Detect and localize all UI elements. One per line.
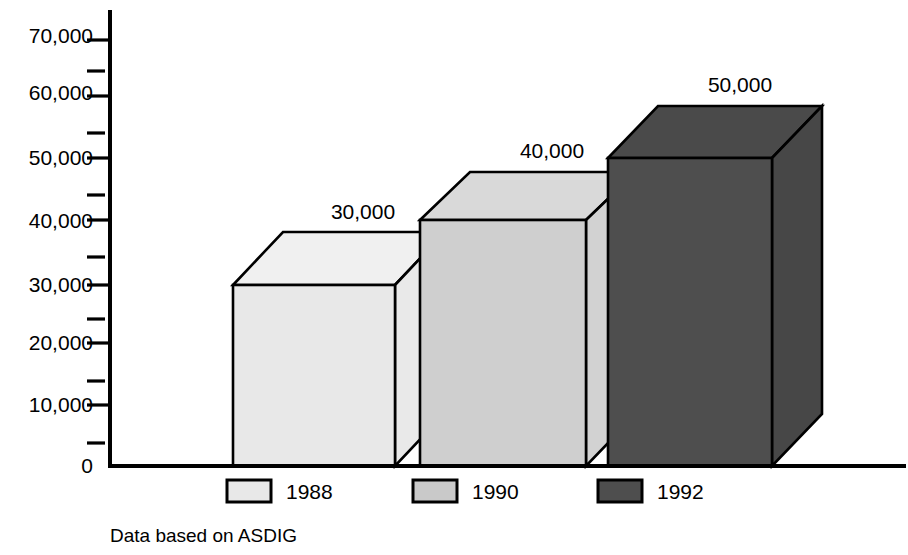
y-axis-tick-label: 30,000 <box>29 273 93 296</box>
chart-container: 70,000 60,000 50,000 40,000 30,000 20,00… <box>0 0 908 555</box>
y-axis-tick-label: 40,000 <box>29 209 93 232</box>
y-axis-tick-label: 70,000 <box>29 24 93 47</box>
bar-1988 <box>233 232 445 466</box>
legend-item-1988[interactable]: 1988 <box>227 480 333 503</box>
y-axis-tick-label: 50,000 <box>29 146 93 169</box>
footnote: Data based on ASDIG <box>110 525 297 546</box>
legend-swatch-icon <box>227 480 271 502</box>
bar-1990 <box>420 172 636 466</box>
bar-value-label: 50,000 <box>708 73 772 96</box>
legend: 1988 1990 1992 <box>227 480 704 503</box>
y-axis-tick-label: 10,000 <box>29 393 93 416</box>
legend-item-1992[interactable]: 1992 <box>598 480 704 503</box>
bar-side-face <box>772 106 822 466</box>
bar-1992 <box>608 106 822 466</box>
bar-value-label: 30,000 <box>331 200 395 223</box>
legend-item-1990[interactable]: 1990 <box>413 480 519 503</box>
y-axis-tick-label: 60,000 <box>29 81 93 104</box>
bar-front-face <box>608 158 772 466</box>
bar-value-label: 40,000 <box>520 139 584 162</box>
bar-chart: 70,000 60,000 50,000 40,000 30,000 20,00… <box>0 0 908 555</box>
y-axis-tick-label: 20,000 <box>29 331 93 354</box>
y-axis-labels: 70,000 60,000 50,000 40,000 30,000 20,00… <box>29 24 93 477</box>
legend-item-label: 1988 <box>286 480 333 503</box>
legend-item-label: 1992 <box>657 480 704 503</box>
legend-swatch-icon <box>598 480 642 502</box>
y-axis-minor-ticks <box>87 71 105 443</box>
legend-item-label: 1990 <box>472 480 519 503</box>
y-axis-tick-label: 0 <box>81 454 93 477</box>
bar-front-face <box>420 220 586 466</box>
legend-swatch-icon <box>413 480 457 502</box>
bar-front-face <box>233 285 395 466</box>
